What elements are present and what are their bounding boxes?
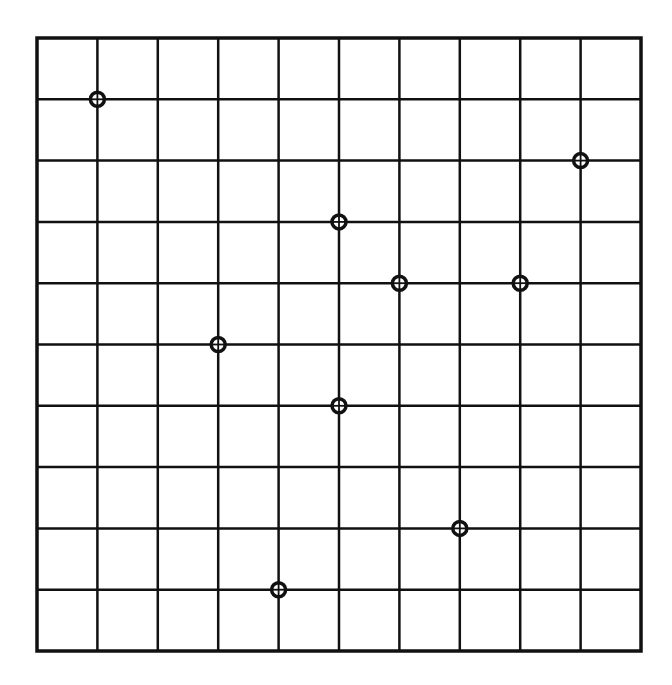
marked-point-icon (211, 338, 225, 352)
marked-point-icon (332, 399, 346, 413)
marked-point-icon (513, 276, 527, 290)
marked-point-icon (272, 583, 286, 597)
marked-point-icon (574, 154, 588, 168)
marked-point-icon (332, 215, 346, 229)
marked-point-icon (90, 92, 104, 106)
grid-diagram (0, 0, 672, 685)
marked-point-icon (392, 276, 406, 290)
marked-point-icon (453, 521, 467, 535)
